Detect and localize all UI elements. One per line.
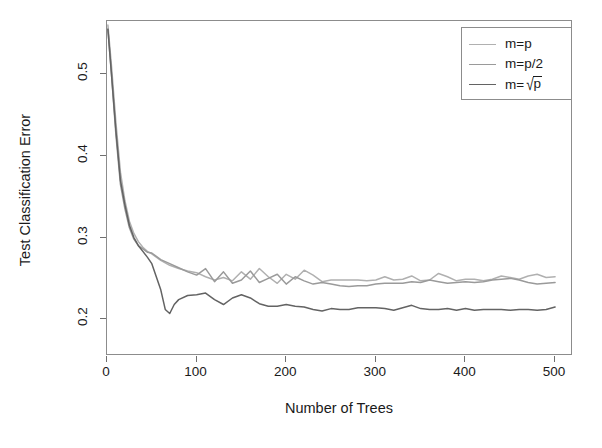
y-tick-label-0: 0.2 [75,307,90,326]
x-tick-label-0: 0 [76,364,136,379]
legend-label-m-p-half: m=p/2 [505,57,543,71]
y-tick-label-2: 0.4 [75,144,90,163]
legend-item-m-p: m=p [469,34,563,54]
x-tick-label-2: 200 [255,364,315,379]
x-tick-4 [464,356,465,362]
sqrt-symbol: √p [524,77,542,92]
legend-label-m-p: m=p [505,37,532,51]
legend-label-m-sqrt-p: m=√p [505,77,542,92]
y-axis-title-text: Test Classification Error [17,114,33,266]
legend-item-m-p-half: m=p/2 [469,54,563,74]
y-tick-3 [100,73,106,74]
y-tick-label-3: 0.5 [75,62,90,81]
y-tick-label-wrap-3: 0.5 [56,64,92,79]
x-tick-label-3: 300 [345,364,405,379]
y-tick-0 [100,318,106,319]
y-tick-label-wrap-2: 0.4 [56,146,92,161]
y-tick-2 [100,155,106,156]
legend-item-m-sqrt-p: m=√p [469,74,563,94]
x-axis-title: Number of Trees [106,400,572,416]
x-tick-label-4: 400 [434,364,494,379]
y-axis-title: Test Classification Error [14,100,36,280]
x-tick-label-5: 500 [524,364,584,379]
x-tick-2 [285,356,286,362]
legend-swatch-m-sqrt-p [469,84,496,85]
radicand: p [533,76,543,91]
x-tick-label-1: 100 [166,364,226,379]
chart-legend: m=p m=p/2 m=√p [461,27,572,100]
legend-swatch-m-p [469,44,496,45]
x-tick-0 [106,356,107,362]
x-tick-3 [375,356,376,362]
y-tick-1 [100,237,106,238]
legend-label-m-sqrt-p-prefix: m= [505,77,524,92]
figure-root: Test Classification Error m=p m=p/2 m=√p… [0,0,602,448]
y-tick-label-wrap-1: 0.3 [56,228,92,243]
x-tick-1 [196,356,197,362]
legend-swatch-m-p-half [469,64,496,65]
y-tick-label-1: 0.3 [75,226,90,245]
y-tick-label-wrap-0: 0.2 [56,309,92,324]
x-tick-5 [554,356,555,362]
